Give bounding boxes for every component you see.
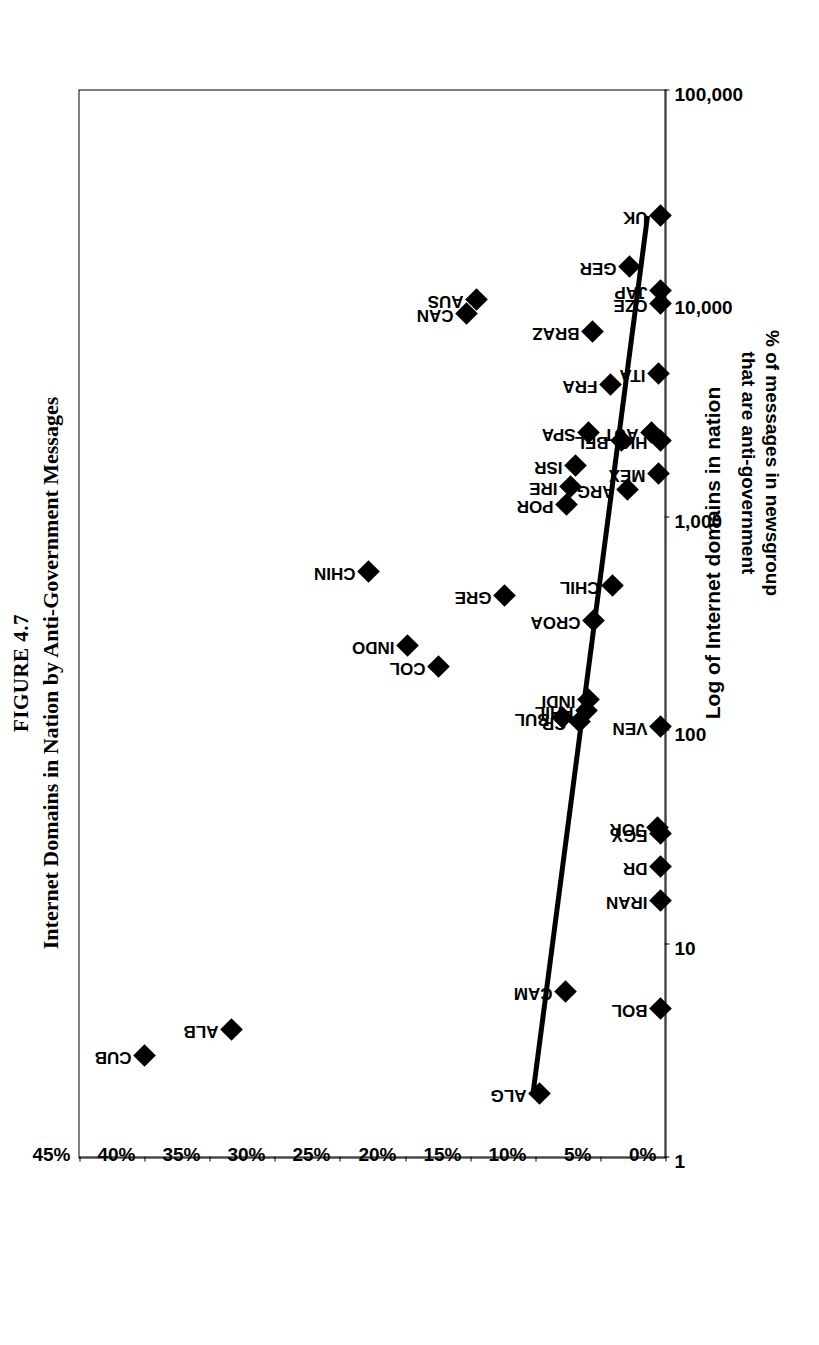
figure-canvas: FIGURE 4.7 Internet Domains in Nation by… [0, 0, 819, 1345]
data-point-label: BRAZ [532, 322, 579, 342]
y-tick-mark [405, 1156, 406, 1161]
diamond-marker [600, 574, 623, 597]
data-point-label: IRAN [605, 891, 647, 911]
y-axis-caption: % of messages in newsgroup that are anti… [736, 0, 784, 1345]
data-point-label: CROA [530, 611, 580, 631]
x-tick-mark [664, 516, 669, 517]
diamond-marker [357, 559, 380, 582]
y-tick-label: 45% [32, 1144, 70, 1166]
data-point-label: CUB [94, 1046, 131, 1066]
data-point-label: COL [390, 657, 426, 677]
data-point-label: JOR [609, 819, 644, 839]
data-point-label: POR [516, 495, 553, 515]
data-point-label: CHIL [559, 576, 599, 596]
diamond-marker [396, 634, 419, 657]
y-tick-mark [209, 1156, 210, 1161]
diamond-marker [564, 454, 587, 477]
diamond-marker [648, 714, 671, 737]
y-tick-label: 40% [97, 1144, 135, 1166]
y-tick-mark [274, 1156, 275, 1161]
data-point-label: GER [579, 257, 616, 277]
diamond-marker [427, 655, 450, 678]
y-axis-caption-line1: % of messages in newsgroup [760, 329, 784, 595]
y-tick-mark [600, 1156, 601, 1161]
x-tick-mark [664, 89, 669, 90]
y-tick-label: 25% [292, 1144, 330, 1166]
data-point-label: SPA [541, 423, 575, 443]
data-point-label: BOL [611, 999, 647, 1019]
data-point-label: FRA [562, 375, 597, 395]
data-point-label: INDO [352, 636, 395, 656]
diamond-marker [555, 493, 578, 516]
y-tick-label: 35% [162, 1144, 200, 1166]
x-tick-label: 1 [674, 1150, 685, 1172]
y-tick-mark [535, 1156, 536, 1161]
diamond-marker [553, 980, 576, 1003]
y-axis-caption-text: % of messages in newsgroup that are anti… [736, 434, 784, 700]
data-point-label: INDI [541, 690, 575, 710]
y-axis-caption-line2: that are anti-government [736, 351, 760, 574]
x-tick-label: 10 [674, 937, 695, 959]
data-point-label: ISR [534, 456, 562, 476]
plot-area: 1101001,00010,000100,000 0%5%10%15%20%25… [78, 89, 666, 1158]
y-tick-label: 30% [227, 1144, 265, 1166]
diamond-marker [648, 889, 671, 912]
data-point-label: AUS [427, 290, 463, 310]
figure-number: FIGURE 4.7 [8, 0, 33, 1345]
x-tick-mark [664, 943, 669, 944]
y-tick-label: 5% [563, 1144, 590, 1166]
diamond-marker [599, 372, 622, 395]
x-axis-caption-text: Log of Internet domains in nation [700, 386, 724, 718]
diamond-marker [647, 362, 670, 385]
data-point-label: JAP [614, 281, 647, 301]
y-tick-label: 15% [423, 1144, 461, 1166]
y-tick-mark [470, 1156, 471, 1161]
diamond-marker [648, 204, 671, 227]
data-point-label: CHIN [314, 562, 356, 582]
data-point-label: ALB [183, 1020, 218, 1040]
figure-title: Internet Domains in Nation by Anti-Gover… [37, 0, 63, 1345]
diamond-marker [492, 584, 515, 607]
diamond-marker [648, 997, 671, 1020]
data-point-label: DR [622, 857, 647, 877]
y-tick-mark [144, 1156, 145, 1161]
diamond-marker [581, 320, 604, 343]
diamond-marker [648, 279, 671, 302]
diamond-marker [133, 1044, 156, 1067]
x-axis-caption: Log of Internet domains in nation [700, 0, 724, 1345]
x-axis-line [664, 90, 665, 1157]
y-tick-mark [339, 1156, 340, 1161]
data-point-label: VEN [612, 717, 647, 737]
diamond-marker [220, 1017, 243, 1040]
y-tick-label: 20% [358, 1144, 396, 1166]
data-point-label: ALG [490, 1084, 526, 1104]
diamond-marker [648, 855, 671, 878]
y-tick-mark [79, 1156, 80, 1161]
y-tick-mark [665, 1156, 666, 1161]
data-point-label: GRE [454, 586, 491, 606]
data-point-label: IRE [529, 477, 557, 497]
y-tick-label: 10% [488, 1144, 526, 1166]
y-tick-label: 0% [629, 1144, 656, 1166]
diamond-marker [647, 462, 670, 485]
trendline-segment [530, 215, 650, 1094]
